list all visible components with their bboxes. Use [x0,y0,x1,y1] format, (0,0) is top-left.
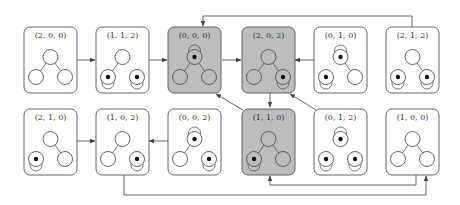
state-label: (1, 0, 0) [397,113,429,122]
state-label: (2, 1, 2) [397,31,429,40]
graph-vertex [58,152,73,167]
state-label: (1, 1, 2) [107,31,139,40]
state-nodes: (2, 0, 0)(1, 1, 2)(0, 0, 0)(2, 0, 2)(0, … [24,27,439,175]
state-label: (0, 1, 0) [325,31,357,40]
token-icon [281,75,285,79]
state-label: (2, 0, 0) [35,31,67,40]
graph-vertex [58,70,73,85]
graph-vertex [261,132,276,147]
edge-110-to-000 [216,94,243,110]
token-icon [106,75,110,79]
state-node: (2, 0, 2) [242,27,295,93]
token-icon [192,55,196,59]
state-node: (2, 1, 2) [386,27,439,93]
state-label: (1, 0, 2) [107,113,139,122]
token-icon [425,75,429,79]
state-node: (1, 0, 2) [96,109,149,175]
graph-vertex [348,70,363,85]
state-node: (2, 0, 0) [24,27,77,93]
token-icon [338,137,342,141]
graph-vertex [101,152,116,167]
graph-vertex [43,50,58,65]
state-label: (0, 0, 0) [179,31,211,40]
state-label: (2, 0, 2) [253,31,285,40]
state-node: (0, 0, 0) [168,27,221,93]
graph-vertex [247,70,262,85]
edge-012-to-202 [290,94,316,110]
graph-vertex [391,152,406,167]
graph-vertex [405,50,420,65]
graph-vertex [276,152,291,167]
state-diagram: (2, 0, 0)(1, 1, 2)(0, 0, 0)(2, 0, 2)(0, … [0,0,460,205]
state-node: (0, 0, 2) [168,109,221,175]
graph-vertex [43,132,58,147]
graph-vertex [173,152,188,167]
token-icon [396,75,400,79]
token-icon [324,75,328,79]
state-node: (1, 0, 0) [386,109,439,175]
edge-100-to-110 [270,175,416,185]
state-label: (1, 1, 0) [253,113,285,122]
token-icon [353,157,357,161]
token-icon [192,137,196,141]
state-label: (0, 0, 2) [179,113,211,122]
state-node: (1, 1, 0) [242,109,295,175]
graph-vertex [420,152,435,167]
graph-vertex [115,50,130,65]
graph-vertex [405,132,420,147]
state-node: (2, 1, 0) [24,109,77,175]
token-icon [207,157,211,161]
graph-vertex [261,50,276,65]
token-icon [135,157,139,161]
token-icon [338,55,342,59]
state-label: (0, 1, 2) [325,113,357,122]
edge-212-to-000 [203,16,412,27]
state-node: (0, 1, 0) [314,27,367,93]
graph-vertex [29,70,44,85]
graph-vertex [202,70,217,85]
token-icon [34,157,38,161]
token-icon [324,157,328,161]
token-icon [135,75,139,79]
state-node: (1, 1, 2) [96,27,149,93]
graph-vertex [173,70,188,85]
graph-vertex [115,132,130,147]
state-node: (0, 1, 2) [314,109,367,175]
state-label: (2, 1, 0) [35,113,67,122]
token-icon [252,157,256,161]
